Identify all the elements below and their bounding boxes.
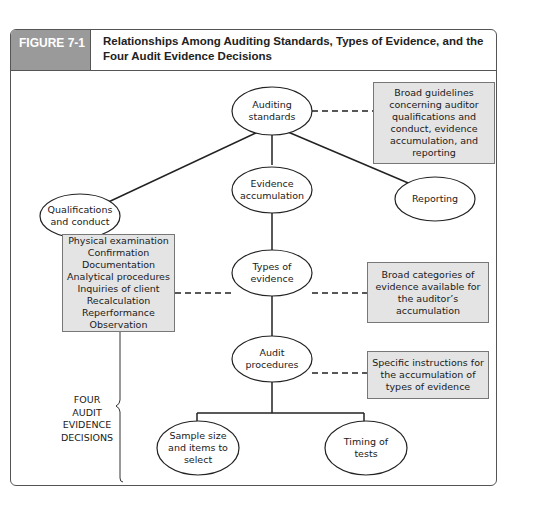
node-timing: Timing of tests (325, 421, 407, 475)
decisions-label: FOUR AUDIT EVIDENCE DECISIONS (58, 394, 116, 444)
node-audit-procedures: Audit procedures (232, 336, 312, 382)
evidence-type: Confirmation (88, 247, 149, 259)
node-auditing-standards: Auditing standards (232, 87, 312, 135)
node-reporting: Reporting (395, 177, 475, 221)
evidence-type: Inquiries of client (77, 283, 159, 295)
evidence-type: Documentation (82, 259, 155, 271)
evidence-types-box: Physical examination Confirmation Docume… (62, 234, 175, 332)
node-sample-size: Sample size and items to select (157, 421, 239, 475)
evidence-type: Physical examination (68, 235, 169, 247)
node-types-of-evidence: Types of evidence (232, 250, 312, 296)
node-qualifications: Qualifications and conduct (40, 194, 120, 238)
note-standards: Broad guidelines concerning auditor qual… (373, 82, 495, 164)
note-procedures: Specific instructions for the accumulati… (367, 351, 489, 399)
evidence-type: Analytical procedures (67, 271, 170, 283)
evidence-type: Reperformance (82, 307, 155, 319)
note-types: Broad categories of evidence available f… (367, 262, 489, 323)
node-evidence-accumulation: Evidence accumulation (232, 167, 312, 213)
evidence-type: Recalculation (87, 295, 151, 307)
evidence-type: Observation (90, 319, 148, 331)
